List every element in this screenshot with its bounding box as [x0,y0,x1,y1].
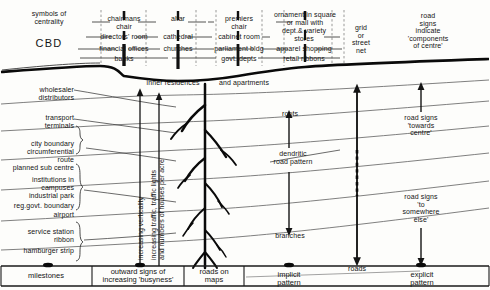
footer-cell-roads-on-maps: roads on maps [185,268,243,284]
left-item-institutions: institutions in campuses [0,176,74,191]
skyline-cell-corporate-1: directors' room [92,33,156,41]
skyline-cell-retail-3: retail ribbons [276,55,332,63]
skyline-cell-religious-1: cathedral [152,33,204,41]
top-right-roadsign-note: road signs indicate 'components of centr… [396,12,460,50]
skyline-cell-government-0: premiers chair [216,15,262,30]
roadsigns-somewhere-else-label: road signs 'to somewhere else' [390,193,452,223]
symbols-of-centrality-label: symbols of centrality [8,10,90,25]
skyline-cell-government-3: govt. depts [214,55,264,63]
skyline-cell-retail-0: ornament in square or mall with [264,11,346,26]
axis-label-verticality: increasing verticality [137,90,145,260]
skyline-cell-government-2: parliament bldg [206,45,272,53]
dendritic-tree [171,84,236,268]
roads-label: roads [330,265,384,273]
inner-residences-label: inner residences [140,79,206,87]
left-item-industrial-park: industrial park [0,192,74,200]
footer-cell-implicit-pattern: implicit pattern [248,271,330,287]
tree-branches-label: branches [266,232,314,240]
left-item-hamburger-strip: hamburger strip [0,247,74,255]
diagram-canvas: symbols of centrality CBD chairmans chai… [0,0,490,290]
left-item-transport: transport terminals [0,114,74,129]
skyline-cell-retail-2: apparel shopping [270,45,338,53]
skyline-cell-pattern-0: grid or street net [346,24,376,54]
left-item-airport: airport [0,211,74,219]
left-item-city-boundary: city boundary [0,140,74,148]
contour-curves [1,80,489,250]
skyline-cell-corporate-3: banks [98,55,150,63]
left-item-wholesaler: wholesaler distributors [0,86,74,101]
skyline-cell-retail-1: dept.& variety stores [268,27,340,42]
footer-cell-milestones: milestones [2,272,90,280]
skyline-cell-religious-2: churches [154,45,202,53]
skyline-cell-religious-0: altar [160,15,196,23]
footer-cell-outward-signs: outward signs of increasing 'busyness' [93,268,183,284]
axis-label-traffic: increasing traffic, traffic lights and n… [150,90,166,260]
left-item-reg-govt-boundary: reg.govt. boundary [0,202,74,210]
skyline-cell-government-1: cabinet room [212,33,266,41]
footer-cell-explicit-pattern: explicit pattern [382,271,462,287]
tree-roots-label: roots [270,110,310,118]
skyline-cell-corporate-2: financial offices [85,45,163,53]
apartments-label: and apartments [208,79,280,87]
roadsigns-towards-centre-label: road signs 'towards centre' [390,114,452,137]
left-item-circumferential: circumferential route [0,148,74,163]
left-item-sub-centre: planned sub centre [0,164,74,172]
skyline-cell-corporate-0: chairmans chair [96,15,152,30]
left-group-braces [76,126,83,261]
left-item-service-station: service station ribbon [0,228,74,243]
tree-pattern-label: dendritic road pattern [262,150,324,165]
cbd-label: CBD [14,40,84,48]
